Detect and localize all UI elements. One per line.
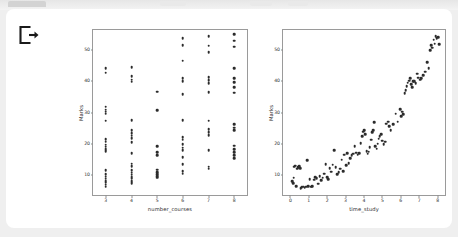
data-point <box>334 166 337 169</box>
data-point <box>404 89 407 92</box>
x-tick-label: 8 <box>436 199 439 204</box>
plot-area-left[interactable] <box>93 30 247 195</box>
data-point <box>182 37 185 40</box>
data-point <box>382 143 385 146</box>
y-tick-mark <box>281 81 284 82</box>
data-point <box>337 171 340 174</box>
data-point <box>207 134 210 137</box>
data-point <box>233 157 236 160</box>
data-point <box>424 70 427 73</box>
data-point <box>411 86 414 89</box>
data-point <box>346 152 349 155</box>
data-point <box>316 177 319 180</box>
data-point <box>295 185 298 188</box>
chart-number-courses[interactable]: Marks number_courses 1020304050345678 <box>64 21 252 228</box>
data-point <box>233 81 236 84</box>
data-point <box>182 44 185 47</box>
data-point <box>380 133 383 136</box>
data-point <box>416 73 419 76</box>
data-point <box>349 157 352 160</box>
data-point <box>373 121 376 124</box>
data-point <box>390 129 393 132</box>
data-point <box>392 123 395 126</box>
data-point <box>333 149 336 152</box>
data-point <box>233 86 236 89</box>
data-point <box>340 158 343 161</box>
y-tick-label: 20 <box>84 141 90 146</box>
x-tick-label: 5 <box>381 199 384 204</box>
plot-area-right[interactable] <box>283 30 445 195</box>
data-point <box>207 149 210 152</box>
data-point <box>367 150 370 153</box>
chart-time-study[interactable]: Marks time_study 1020304050012345678 <box>254 21 450 228</box>
x-tick-label: 3 <box>104 199 107 204</box>
x-tick-label: 7 <box>207 199 210 204</box>
data-point <box>182 93 185 96</box>
data-point <box>306 159 309 162</box>
data-point <box>182 60 185 63</box>
data-point <box>345 164 348 167</box>
data-point <box>130 66 133 69</box>
y-tick-label: 50 <box>84 48 90 53</box>
data-point <box>130 152 133 155</box>
header-placeholder-2 <box>250 1 272 6</box>
data-point <box>426 61 429 64</box>
data-point <box>233 148 236 151</box>
data-point <box>384 140 387 143</box>
data-point <box>105 150 108 153</box>
data-point <box>353 145 356 148</box>
data-point <box>105 185 108 188</box>
data-point <box>317 182 320 185</box>
data-point <box>207 119 210 122</box>
figure-container: Marks number_courses 1020304050345678 Ma… <box>44 21 454 228</box>
data-point <box>233 129 236 132</box>
data-point <box>364 133 367 136</box>
browser-tab[interactable] <box>8 1 46 7</box>
y-tick-mark <box>91 81 94 82</box>
data-point <box>233 91 236 94</box>
y-axis-label-left: Marks <box>78 105 84 121</box>
data-point <box>130 182 133 185</box>
data-point <box>105 169 108 172</box>
x-tick-label: 6 <box>181 199 184 204</box>
data-point <box>372 129 375 132</box>
y-tick-mark <box>281 174 284 175</box>
data-point <box>156 109 159 112</box>
data-point <box>182 80 185 83</box>
data-point <box>233 67 236 70</box>
data-point <box>377 137 380 140</box>
data-point <box>323 172 326 175</box>
data-point <box>156 145 159 148</box>
data-point <box>438 43 441 46</box>
header-placeholder-3 <box>288 1 308 6</box>
y-tick-mark <box>91 143 94 144</box>
data-point <box>299 167 302 170</box>
data-point <box>428 67 431 70</box>
data-point <box>397 121 400 124</box>
data-point <box>182 156 185 159</box>
x-tick-label: 7 <box>418 199 421 204</box>
y-tick-label: 40 <box>274 79 280 84</box>
data-point <box>156 90 159 93</box>
data-point <box>311 185 314 188</box>
data-point <box>156 154 159 157</box>
data-point <box>292 182 295 185</box>
content-card: Marks number_courses 1020304050345678 Ma… <box>6 9 452 228</box>
screen: Marks number_courses 1020304050345678 Ma… <box>0 0 458 237</box>
export-icon[interactable] <box>17 24 41 46</box>
y-tick-label: 10 <box>274 172 280 177</box>
data-point <box>130 141 133 144</box>
y-tick-mark <box>281 143 284 144</box>
y-tick-mark <box>91 174 94 175</box>
data-point <box>207 35 210 38</box>
x-tick-label: 6 <box>399 199 402 204</box>
y-tick-label: 40 <box>84 79 90 84</box>
data-point <box>403 92 406 95</box>
header-placeholder-1 <box>160 1 186 6</box>
y-axis-label-right: Marks <box>268 105 274 121</box>
data-point <box>292 176 295 179</box>
data-point <box>387 120 390 123</box>
x-tick-label: 8 <box>233 199 236 204</box>
data-point <box>402 113 405 116</box>
data-point <box>359 142 362 145</box>
